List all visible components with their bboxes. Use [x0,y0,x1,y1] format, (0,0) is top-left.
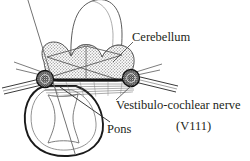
figure-root: Cerebellum Vestibulo-cochlear nerve (V11… [0,0,250,161]
pons-leader-line [60,87,110,122]
right-nerve-fibres [135,64,178,92]
left-nerve-node [37,71,54,88]
label-cerebellum: Cerebellum [132,31,190,44]
label-vestibulo-cochlear-nerve: Vestibulo-cochlear nerve [116,99,241,112]
anatomy-diagram [0,0,250,161]
label-pons: Pons [107,123,131,136]
pons-shape [25,86,103,156]
right-nerve-node [123,70,140,87]
label-nerve-number: (V111) [176,120,211,133]
